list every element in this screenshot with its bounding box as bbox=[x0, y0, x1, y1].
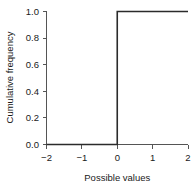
x-tick-labels: −2 −1 0 1 2 bbox=[41, 152, 191, 163]
x-tick-label: 1 bbox=[150, 152, 155, 163]
y-tick-marks bbox=[43, 12, 47, 145]
y-axis-title: Cumulative frequency bbox=[4, 31, 15, 123]
y-tick-label: 1.0 bbox=[26, 6, 39, 17]
y-tick-label: 0.0 bbox=[26, 139, 39, 150]
chart-figure: 1.0 0.8 0.6 0.4 0.2 0.0 −2 −1 0 1 2 Poss… bbox=[0, 0, 195, 188]
x-tick-label: −2 bbox=[41, 152, 52, 163]
y-tick-labels: 1.0 0.8 0.6 0.4 0.2 0.0 bbox=[26, 6, 39, 150]
y-tick-label: 0.2 bbox=[26, 112, 39, 123]
y-tick-label: 0.8 bbox=[26, 32, 39, 43]
y-tick-label: 0.6 bbox=[26, 59, 39, 70]
cumulative-frequency-step-line bbox=[47, 12, 189, 145]
y-tick-label: 0.4 bbox=[26, 86, 39, 97]
cumulative-frequency-step-chart: 1.0 0.8 0.6 0.4 0.2 0.0 −2 −1 0 1 2 Poss… bbox=[0, 0, 195, 188]
x-axis-title: Possible values bbox=[84, 172, 150, 183]
x-tick-label: 2 bbox=[185, 152, 190, 163]
x-tick-label: 0 bbox=[115, 152, 120, 163]
x-tick-label: −1 bbox=[76, 152, 87, 163]
